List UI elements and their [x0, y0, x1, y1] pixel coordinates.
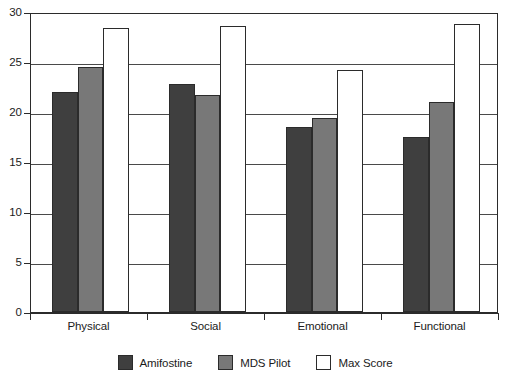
- legend-swatch-amifostine: [118, 355, 133, 370]
- y-tick: [24, 263, 31, 264]
- legend-item: Amifostine: [118, 355, 193, 370]
- bar-social-mds-pilot: [195, 95, 221, 312]
- bar-emotional-amifostine: [286, 127, 312, 312]
- x-tick: [147, 313, 148, 320]
- x-tick: [498, 313, 499, 320]
- y-tick: [24, 213, 31, 214]
- x-tick: [30, 313, 31, 320]
- legend-label: MDS Pilot: [240, 357, 290, 369]
- legend-label: Amifostine: [140, 357, 193, 369]
- y-tick-label: 10: [0, 207, 22, 219]
- y-tick: [24, 13, 31, 14]
- x-category-label: Functional: [381, 320, 498, 332]
- bar-social-max-score: [220, 26, 246, 312]
- x-category-label: Physical: [30, 320, 147, 332]
- bar-functional-amifostine: [403, 137, 429, 312]
- bar-physical-mds-pilot: [78, 67, 104, 312]
- bar-physical-amifostine: [52, 92, 78, 312]
- bar-functional-max-score: [454, 24, 480, 312]
- bars-layer: [31, 14, 497, 312]
- bar-emotional-max-score: [337, 70, 363, 312]
- legend-swatch-max-score: [316, 355, 331, 370]
- legend-label: Max Score: [338, 357, 392, 369]
- x-tick: [381, 313, 382, 320]
- bar-functional-mds-pilot: [429, 102, 455, 312]
- x-category-label: Social: [147, 320, 264, 332]
- y-tick-label: 0: [0, 307, 22, 319]
- plot-area: [30, 13, 498, 313]
- y-tick-label: 25: [0, 57, 22, 69]
- y-tick: [24, 63, 31, 64]
- legend-item: MDS Pilot: [218, 355, 290, 370]
- x-category-label: Emotional: [264, 320, 381, 332]
- y-tick: [24, 163, 31, 164]
- legend-swatch-mds-pilot: [218, 355, 233, 370]
- legend: Amifostine MDS Pilot Max Score: [0, 355, 510, 370]
- y-tick-label: 5: [0, 257, 22, 269]
- bar-social-amifostine: [169, 84, 195, 312]
- x-tick: [264, 313, 265, 320]
- y-tick-label: 20: [0, 107, 22, 119]
- y-tick: [24, 113, 31, 114]
- y-tick-label: 30: [0, 7, 22, 19]
- bar-emotional-mds-pilot: [312, 118, 338, 312]
- bar-chart: 0 5 10 15 20 25 30 PhysicalSocialEmotion…: [0, 0, 510, 385]
- legend-item: Max Score: [316, 355, 392, 370]
- bar-physical-max-score: [103, 28, 129, 312]
- y-tick-label: 15: [0, 157, 22, 169]
